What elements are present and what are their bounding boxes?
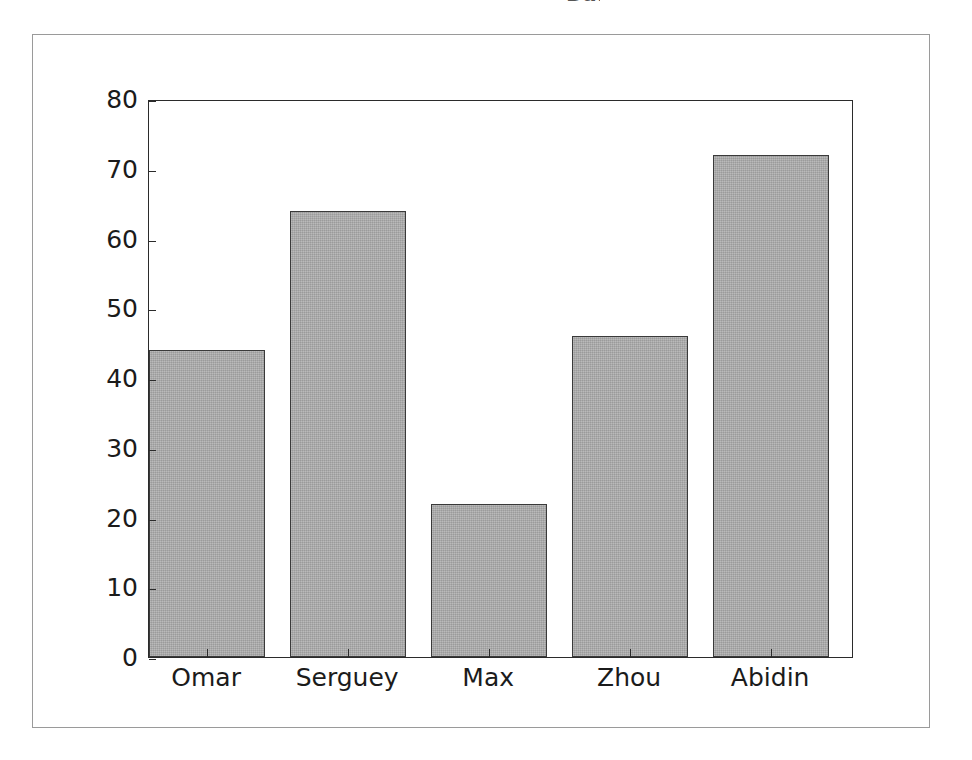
plot-inner [149, 101, 852, 657]
x-tick-label-omar: Omar [136, 664, 277, 692]
x-tick-label-zhou: Zhou [559, 664, 700, 692]
x-tick-mark [771, 649, 772, 657]
y-tick-mark [149, 241, 156, 242]
cropped-title-remnant: Bar graph [566, 0, 600, 6]
y-tick-label-20: 20 [106, 506, 138, 531]
x-tick-mark [630, 649, 631, 657]
y-tick-mark [149, 310, 156, 311]
y-tick-label-50: 50 [106, 296, 138, 321]
y-tick-mark [149, 101, 156, 102]
plot-area [148, 100, 853, 658]
x-axis-tick-labels: OmarSergueyMaxZhouAbidin [148, 664, 853, 704]
bar-zhou [572, 336, 688, 657]
y-axis-tick-labels: 01020304050607080 [60, 100, 138, 658]
y-tick-label-40: 40 [106, 366, 138, 391]
cropped-title-text: Bar graph [566, 0, 600, 5]
x-tick-mark [348, 649, 349, 657]
bar-max [431, 504, 547, 657]
y-tick-label-30: 30 [106, 436, 138, 461]
bar-omar [149, 350, 265, 657]
bar-abidin [713, 155, 829, 657]
y-tick-mark [149, 589, 156, 590]
y-tick-mark [149, 171, 156, 172]
x-tick-mark [489, 649, 490, 657]
y-tick-mark [149, 380, 156, 381]
x-tick-label-serguey: Serguey [277, 664, 418, 692]
y-tick-label-60: 60 [106, 227, 138, 252]
x-tick-label-abidin: Abidin [700, 664, 841, 692]
y-tick-mark [149, 450, 156, 451]
y-tick-label-10: 10 [106, 575, 138, 600]
bar-serguey [290, 211, 406, 657]
x-tick-mark [207, 649, 208, 657]
x-tick-label-max: Max [418, 664, 559, 692]
y-tick-label-70: 70 [106, 157, 138, 182]
y-tick-mark [149, 659, 156, 660]
y-tick-mark [149, 520, 156, 521]
y-tick-label-80: 80 [106, 87, 138, 112]
